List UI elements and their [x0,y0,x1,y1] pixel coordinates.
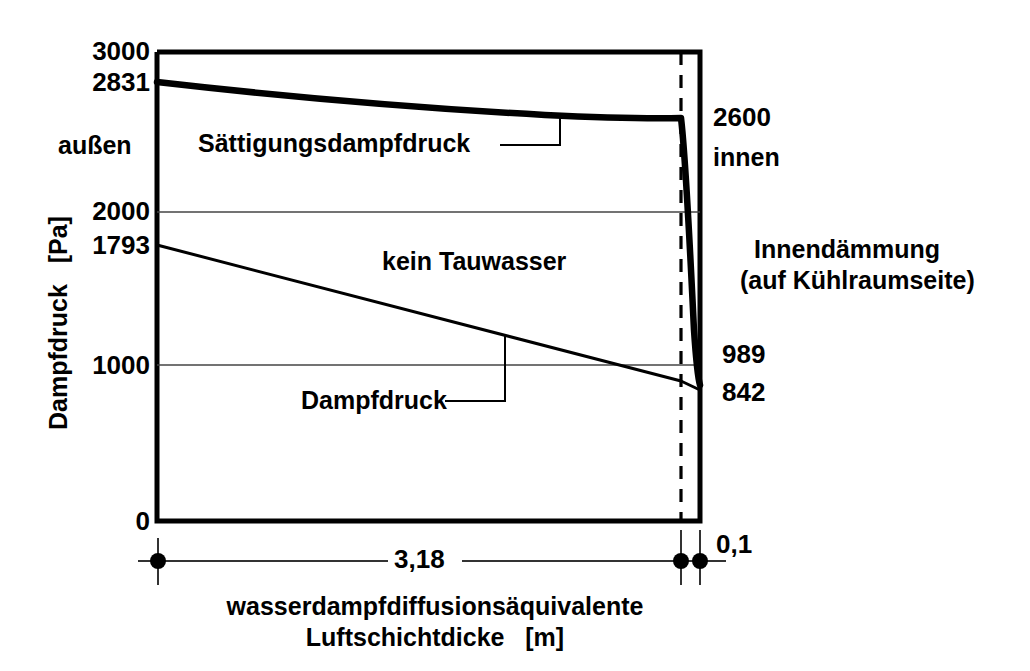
dim-label-318: 3,18 [394,546,445,572]
right-value-2600: 2600 [713,104,771,130]
chart-canvas [0,0,1030,671]
insulation-label-line1: Innendämmung [754,237,940,262]
dim-dot-right [692,553,708,569]
saturation-label-leader [500,118,560,145]
inside-label: innen [713,145,780,170]
x-axis-caption-line1: wasserdampfdiffusionsäquivalente [0,594,950,619]
y-axis-title: Dampfdruck [Pa] [46,216,71,430]
x-axis-caption-line2: Luftschichtdicke [m] [0,625,950,650]
diffusion-diagram: 3000 2831 2000 1793 1000 0 außen Dampfdr… [0,0,1030,671]
gridlines [157,212,700,365]
right-value-842: 842 [722,379,765,405]
insulation-label-line2: (auf Kühlraumseite) [740,268,975,293]
dim-dot-left [150,553,166,569]
right-value-989: 989 [722,341,765,367]
no-condensation-label: kein Tauwasser [382,249,566,274]
plot-frame [157,52,700,521]
frame-outline [157,52,700,521]
y-tick-0: 0 [50,508,150,534]
vapour-label-leader [445,336,505,401]
y-tick-3000: 3000 [50,38,150,64]
saturation-pressure-label: Sättigungsdampfdruck [198,131,470,156]
vapour-pressure-label: Dampfdruck [301,388,447,413]
dim-dot-mid [673,553,689,569]
dim-label-01: 0,1 [716,531,752,557]
saturation-pressure-curve [157,82,700,385]
outside-label: außen [58,133,132,158]
y-value-2831: 2831 [50,69,150,95]
